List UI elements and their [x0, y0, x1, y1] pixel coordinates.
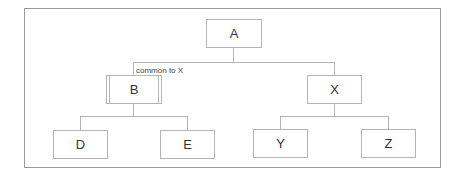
- node-a-label: A: [230, 26, 239, 41]
- node-e-label: E: [183, 137, 192, 152]
- connector-b-down: [133, 103, 134, 116]
- connector-x-down: [334, 103, 335, 116]
- connector-to-d: [80, 116, 81, 130]
- connector-x-level: [280, 116, 388, 117]
- node-d: D: [53, 130, 108, 159]
- node-x: X: [307, 75, 362, 104]
- connector-a-down: [233, 47, 234, 62]
- node-b-label: B: [130, 82, 139, 97]
- connector-to-b: [133, 62, 134, 75]
- connector-to-z: [388, 116, 389, 129]
- node-y: Y: [253, 129, 308, 158]
- node-z: Z: [361, 129, 416, 158]
- connector-to-y: [280, 116, 281, 129]
- connector-to-e: [187, 116, 188, 130]
- connector-a-level: [133, 62, 334, 63]
- connector-to-x: [334, 62, 335, 75]
- node-d-label: D: [76, 137, 85, 152]
- node-y-label: Y: [276, 136, 285, 151]
- node-z-label: Z: [385, 136, 393, 151]
- node-x-label: X: [330, 82, 339, 97]
- node-b: B: [106, 75, 162, 104]
- connector-b-level: [80, 116, 187, 117]
- annotation-common-to-x: common to X: [136, 66, 183, 75]
- node-a: A: [206, 19, 262, 48]
- node-e: E: [160, 130, 215, 159]
